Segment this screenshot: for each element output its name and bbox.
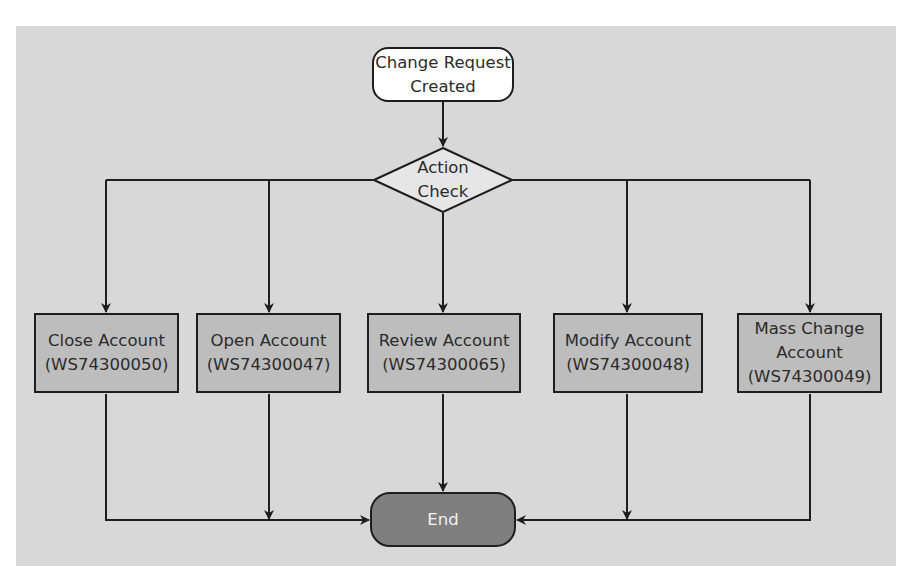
process-modify-account: Modify Account (WS74300048)	[553, 313, 703, 393]
process-label: Close Account	[48, 329, 165, 353]
process-code: (WS74300065)	[382, 353, 506, 377]
process-label: Modify Account	[565, 329, 692, 353]
process-code: (WS74300050)	[45, 353, 169, 377]
start-node-change-request-created: Change Request Created	[372, 47, 514, 102]
process-label: Review Account	[379, 329, 510, 353]
edge-close-end	[106, 394, 369, 520]
process-code: (WS74300048)	[566, 353, 690, 377]
process-label-line2: Account	[776, 341, 843, 365]
end-node: End	[370, 492, 516, 547]
process-label-line1: Mass Change	[755, 317, 865, 341]
edge-mass-end	[517, 394, 810, 520]
process-label: Open Account	[211, 329, 327, 353]
process-mass-change-account: Mass Change Account (WS74300049)	[737, 313, 882, 393]
decision-node-action-check: Action Check	[373, 147, 513, 213]
decision-label-line2: Check	[418, 180, 469, 204]
process-code: (WS74300047)	[207, 353, 331, 377]
decision-label-line1: Action	[417, 156, 469, 180]
start-label-line1: Change Request	[375, 51, 510, 75]
start-label-line2: Created	[410, 75, 475, 99]
process-review-account: Review Account (WS74300065)	[367, 313, 521, 393]
process-close-account: Close Account (WS74300050)	[34, 313, 179, 393]
end-label: End	[427, 508, 458, 532]
process-code: (WS74300049)	[748, 365, 872, 389]
process-open-account: Open Account (WS74300047)	[196, 313, 341, 393]
